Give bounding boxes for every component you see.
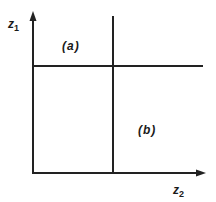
x-axis-arrow-icon [196, 170, 206, 177]
diagram-canvas: z1 z2 (a) (b) [0, 0, 216, 202]
y-axis-label-subscript: 1 [14, 23, 19, 33]
region-a-label: (a) [62, 40, 80, 52]
y-axis-arrow-icon [30, 11, 37, 21]
region-b-label: (b) [138, 124, 156, 136]
y-axis-label: z1 [8, 18, 19, 33]
diagram-lines [0, 0, 216, 202]
x-axis-label-subscript: 2 [179, 189, 184, 199]
x-axis-label: z2 [173, 184, 184, 199]
